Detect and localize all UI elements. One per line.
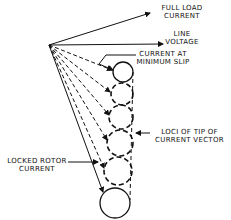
vector-locus-diagram: FULL LOAD CURRENT LINE VOLTAGE CURRENT A… [0,0,231,220]
locus-circle-2 [111,83,133,105]
line-voltage-vector [49,44,163,45]
locus-circle-1 [113,62,133,82]
full-load-current-vector [49,13,150,45]
label-full-load-current: FULL LOAD CURRENT [152,4,212,20]
locus-circle-6 [100,188,130,218]
locus-circle-3 [109,105,133,129]
label-loci: LOCI OF TIP OF CURRENT VECTOR [152,128,227,144]
locus-circle-5 [104,157,132,185]
current-vectors [49,45,112,168]
locus-circle-4 [107,130,133,156]
label-line-voltage: LINE VOLTAGE [162,30,202,46]
label-locked-rotor: LOCKED ROTOR CURRENT [6,157,68,173]
label-current-min-slip: CURRENT AT MINIMUM SLIP [134,50,192,66]
leader-min-slip [99,55,136,70]
